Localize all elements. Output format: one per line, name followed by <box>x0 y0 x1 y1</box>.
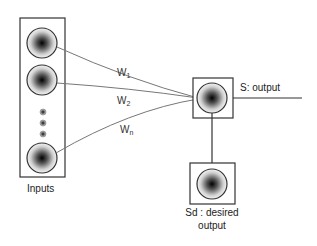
inputs-label: Inputs <box>27 183 54 194</box>
perceptron-diagram: Inputs W1 W2 Wn S: output Sd : desired o… <box>0 0 317 246</box>
desired-output-label-line1: Sd : desired <box>185 207 238 218</box>
connection-w2 <box>57 83 198 98</box>
ellipsis-dot <box>40 131 46 137</box>
desired-output-node <box>197 169 227 199</box>
desired-output-label-line2: output <box>198 220 226 231</box>
weight-label-wn: Wn <box>120 124 133 136</box>
ellipsis-dot <box>40 120 46 126</box>
output-label: S: output <box>240 82 280 93</box>
input-node-2 <box>27 65 57 95</box>
weight-label-w1: W1 <box>117 67 130 79</box>
input-node-1 <box>27 28 57 58</box>
weight-label-w2: W2 <box>117 95 130 107</box>
input-node-n <box>27 143 57 173</box>
ellipsis-dot <box>40 109 46 115</box>
output-neuron-node <box>197 83 227 113</box>
